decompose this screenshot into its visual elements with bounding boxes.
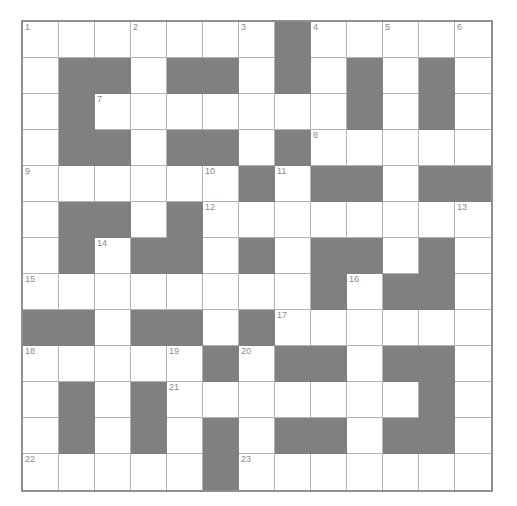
crossword-open-cell[interactable]: [203, 238, 239, 274]
crossword-open-cell[interactable]: [455, 418, 491, 454]
crossword-open-cell[interactable]: [455, 94, 491, 130]
crossword-open-cell[interactable]: 20: [239, 346, 275, 382]
crossword-open-cell[interactable]: [131, 202, 167, 238]
crossword-open-cell[interactable]: [203, 22, 239, 58]
crossword-open-cell[interactable]: 7: [95, 94, 131, 130]
crossword-open-cell[interactable]: [95, 454, 131, 490]
crossword-open-cell[interactable]: [23, 202, 59, 238]
crossword-open-cell[interactable]: [455, 130, 491, 166]
crossword-open-cell[interactable]: [23, 58, 59, 94]
crossword-open-cell[interactable]: [131, 94, 167, 130]
crossword-open-cell[interactable]: [203, 382, 239, 418]
crossword-open-cell[interactable]: [383, 94, 419, 130]
crossword-open-cell[interactable]: [383, 166, 419, 202]
crossword-open-cell[interactable]: [167, 274, 203, 310]
crossword-open-cell[interactable]: 2: [131, 22, 167, 58]
crossword-open-cell[interactable]: 12: [203, 202, 239, 238]
crossword-open-cell[interactable]: 19: [167, 346, 203, 382]
crossword-open-cell[interactable]: [347, 418, 383, 454]
crossword-open-cell[interactable]: [419, 310, 455, 346]
crossword-open-cell[interactable]: [275, 94, 311, 130]
crossword-open-cell[interactable]: [419, 130, 455, 166]
crossword-open-cell[interactable]: 3: [239, 22, 275, 58]
crossword-grid[interactable]: 1234567891011121314151617181920212223: [21, 20, 493, 492]
crossword-open-cell[interactable]: [95, 22, 131, 58]
crossword-open-cell[interactable]: 16: [347, 274, 383, 310]
crossword-open-cell[interactable]: [455, 274, 491, 310]
crossword-open-cell[interactable]: [131, 346, 167, 382]
crossword-open-cell[interactable]: [419, 22, 455, 58]
crossword-open-cell[interactable]: [203, 274, 239, 310]
crossword-open-cell[interactable]: 8: [311, 130, 347, 166]
crossword-open-cell[interactable]: [275, 274, 311, 310]
crossword-open-cell[interactable]: [59, 166, 95, 202]
crossword-open-cell[interactable]: 18: [23, 346, 59, 382]
crossword-open-cell[interactable]: [59, 346, 95, 382]
crossword-open-cell[interactable]: [383, 382, 419, 418]
crossword-open-cell[interactable]: [419, 202, 455, 238]
crossword-open-cell[interactable]: [455, 310, 491, 346]
crossword-open-cell[interactable]: [383, 454, 419, 490]
crossword-open-cell[interactable]: [419, 454, 455, 490]
crossword-open-cell[interactable]: [95, 310, 131, 346]
crossword-open-cell[interactable]: [239, 274, 275, 310]
crossword-open-cell[interactable]: [239, 130, 275, 166]
crossword-open-cell[interactable]: 11: [275, 166, 311, 202]
crossword-open-cell[interactable]: [239, 94, 275, 130]
crossword-open-cell[interactable]: [275, 382, 311, 418]
crossword-open-cell[interactable]: 9: [23, 166, 59, 202]
crossword-open-cell[interactable]: [167, 22, 203, 58]
crossword-open-cell[interactable]: [347, 454, 383, 490]
crossword-open-cell[interactable]: [275, 202, 311, 238]
crossword-open-cell[interactable]: [347, 130, 383, 166]
crossword-open-cell[interactable]: 15: [23, 274, 59, 310]
crossword-open-cell[interactable]: [23, 94, 59, 130]
crossword-open-cell[interactable]: [455, 454, 491, 490]
crossword-open-cell[interactable]: 22: [23, 454, 59, 490]
crossword-open-cell[interactable]: 6: [455, 22, 491, 58]
crossword-open-cell[interactable]: [95, 274, 131, 310]
crossword-open-cell[interactable]: 4: [311, 22, 347, 58]
crossword-open-cell[interactable]: 1: [23, 22, 59, 58]
crossword-open-cell[interactable]: [59, 22, 95, 58]
crossword-open-cell[interactable]: [347, 22, 383, 58]
crossword-open-cell[interactable]: [131, 58, 167, 94]
crossword-open-cell[interactable]: [95, 346, 131, 382]
crossword-open-cell[interactable]: [167, 418, 203, 454]
crossword-open-cell[interactable]: [131, 166, 167, 202]
crossword-open-cell[interactable]: [311, 310, 347, 346]
crossword-open-cell[interactable]: 13: [455, 202, 491, 238]
crossword-open-cell[interactable]: [167, 94, 203, 130]
crossword-open-cell[interactable]: [383, 238, 419, 274]
crossword-open-cell[interactable]: 5: [383, 22, 419, 58]
crossword-open-cell[interactable]: [95, 382, 131, 418]
crossword-open-cell[interactable]: [131, 130, 167, 166]
crossword-open-cell[interactable]: 17: [275, 310, 311, 346]
crossword-open-cell[interactable]: [311, 454, 347, 490]
crossword-open-cell[interactable]: [59, 454, 95, 490]
crossword-open-cell[interactable]: [203, 310, 239, 346]
crossword-open-cell[interactable]: [23, 382, 59, 418]
crossword-open-cell[interactable]: [167, 454, 203, 490]
crossword-open-cell[interactable]: [455, 238, 491, 274]
crossword-open-cell[interactable]: [455, 58, 491, 94]
crossword-open-cell[interactable]: [383, 58, 419, 94]
crossword-open-cell[interactable]: [275, 454, 311, 490]
crossword-open-cell[interactable]: [167, 166, 203, 202]
crossword-open-cell[interactable]: [383, 202, 419, 238]
crossword-open-cell[interactable]: [131, 454, 167, 490]
crossword-open-cell[interactable]: [23, 130, 59, 166]
crossword-open-cell[interactable]: [95, 166, 131, 202]
crossword-open-cell[interactable]: [311, 94, 347, 130]
crossword-open-cell[interactable]: [239, 382, 275, 418]
crossword-open-cell[interactable]: [311, 382, 347, 418]
crossword-open-cell[interactable]: [383, 310, 419, 346]
crossword-open-cell[interactable]: [23, 418, 59, 454]
crossword-open-cell[interactable]: [347, 310, 383, 346]
crossword-open-cell[interactable]: [239, 202, 275, 238]
crossword-open-cell[interactable]: [239, 58, 275, 94]
crossword-open-cell[interactable]: [347, 346, 383, 382]
crossword-open-cell[interactable]: [131, 274, 167, 310]
crossword-open-cell[interactable]: [383, 130, 419, 166]
crossword-open-cell[interactable]: [347, 382, 383, 418]
